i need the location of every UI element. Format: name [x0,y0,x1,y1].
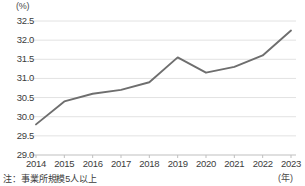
y-tick-label: 30.5 [0,92,34,103]
gridlines-group [31,21,296,155]
chart-footnote: 注：事業所規模5人以上 [3,172,97,185]
y-tick-label: 32.5 [0,15,34,26]
y-tick-label: 32.0 [0,34,34,45]
y-tick-label: 30.0 [0,111,34,122]
y-tick-label: 31.0 [0,72,34,83]
y-tick-label: 31.5 [0,53,34,64]
line-chart: (%) 32.532.031.531.030.530.029.529.0 201… [0,0,305,186]
x-tick-label: 2023 [271,158,305,169]
data-series-line [36,31,291,125]
x-axis-unit-label: (年) [278,171,293,184]
y-tick-label: 29.5 [0,130,34,141]
